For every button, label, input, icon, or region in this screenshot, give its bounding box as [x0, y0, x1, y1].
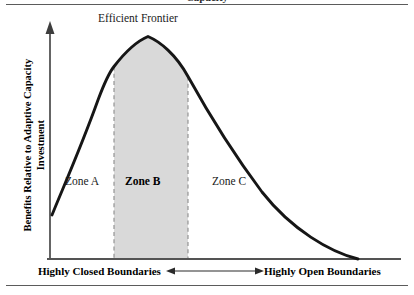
y-axis-title: Benefits Relative to Adaptive Capacity I…	[21, 45, 47, 245]
x-axis-left-label: Highly Closed Boundaries	[38, 266, 161, 277]
zone-b-shaded-region	[114, 37, 188, 260]
zone-c-label: Zone C	[212, 176, 246, 188]
figure-container: Capacity Efficient Frontier Benefits Rel…	[0, 0, 414, 295]
bottom-horizontal-rule	[6, 285, 408, 286]
y-axis-arrowhead	[46, 21, 55, 34]
efficient-frontier-label: Efficient Frontier	[98, 13, 178, 25]
zone-b-label: Zone B	[125, 176, 160, 188]
boundary-direction-double-arrow	[166, 268, 264, 275]
zone-a-label: Zone A	[65, 176, 99, 188]
x-axis-right-label: Highly Open Boundaries	[264, 266, 381, 277]
plot-area-svg	[0, 0, 414, 295]
benefits-curve	[52, 37, 358, 260]
